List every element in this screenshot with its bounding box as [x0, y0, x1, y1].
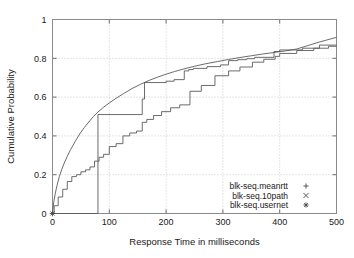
- x-tick-label: 200: [159, 217, 174, 227]
- gridlines: [53, 20, 337, 214]
- y-tick-label: 0.6: [34, 92, 47, 102]
- series-line-1: [53, 46, 337, 213]
- cdf-plot: 0100200300400500 00.20.40.60.81 Response…: [0, 0, 354, 258]
- y-tick-label: 0.2: [34, 170, 47, 180]
- x-axis-title: Response Time in milliseconds: [129, 236, 260, 247]
- y-tick-label: 0.8: [34, 54, 47, 64]
- series-lines: [53, 37, 337, 213]
- x-tick-label: 500: [329, 217, 344, 227]
- series-line-2: [53, 45, 337, 213]
- x-tick-label: 400: [272, 217, 287, 227]
- legend-label-2: blk-seq.usernet: [230, 200, 289, 210]
- origin-data-marker: [50, 211, 56, 217]
- y-tick-label: 0: [41, 209, 46, 219]
- y-axis-title: Cumulative Probability: [5, 69, 16, 164]
- legend-marker-*: [303, 202, 308, 207]
- legend-marker-x: [303, 193, 308, 198]
- legend-marker-+: [303, 183, 308, 188]
- x-tick-label: 100: [102, 217, 117, 227]
- y-tick-label: 0.4: [34, 131, 47, 141]
- legend: blk-seq.meanrttblk-seq.10pathblk-seq.use…: [229, 181, 308, 210]
- tick-marks: [53, 20, 337, 214]
- legend-label-0: blk-seq.meanrtt: [229, 181, 288, 191]
- y-tick-labels: 00.20.40.60.81: [34, 15, 47, 219]
- y-tick-label: 1: [41, 15, 46, 25]
- plot-frame: [53, 20, 337, 214]
- legend-label-1: blk-seq.10path: [232, 191, 288, 201]
- x-tick-label: 0: [50, 217, 55, 227]
- chart-figure: 0100200300400500 00.20.40.60.81 Response…: [0, 0, 354, 258]
- series-line-0: [53, 37, 337, 213]
- x-tick-labels: 0100200300400500: [50, 217, 344, 227]
- x-tick-label: 300: [215, 217, 230, 227]
- origin-marker: [50, 211, 56, 217]
